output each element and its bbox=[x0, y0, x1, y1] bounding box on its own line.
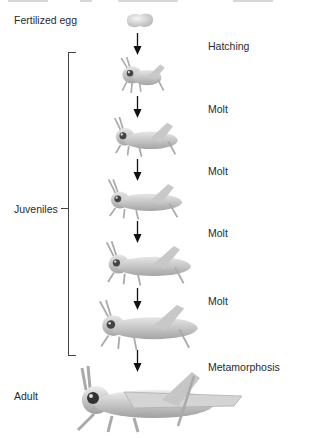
adult-label: Adult bbox=[14, 390, 38, 402]
juveniles-bracket bbox=[68, 52, 69, 356]
down-arrow-icon bbox=[133, 96, 142, 118]
transition-label-molt: Molt bbox=[208, 103, 228, 115]
juvenile-5-illustration bbox=[95, 300, 205, 352]
juvenile-3-illustration bbox=[104, 179, 190, 221]
juvenile-4-illustration bbox=[102, 241, 198, 287]
transition-label-hatching: Hatching bbox=[208, 40, 249, 52]
bracket-tick bbox=[61, 208, 69, 209]
juvenile-1-illustration bbox=[115, 57, 171, 95]
egg-illustration bbox=[124, 11, 156, 31]
transition-label-molt: Molt bbox=[208, 295, 228, 307]
transition-label-molt: Molt bbox=[208, 227, 228, 239]
cut-off-caption bbox=[8, 0, 308, 3]
bracket-top-cap bbox=[68, 52, 76, 53]
transition-label-molt: Molt bbox=[208, 165, 228, 177]
adult-illustration bbox=[74, 366, 254, 436]
fertilized-egg-label: Fertilized egg bbox=[14, 14, 77, 26]
juvenile-2-illustration bbox=[110, 117, 186, 159]
down-arrow-icon bbox=[133, 221, 142, 243]
bracket-bottom-cap bbox=[68, 355, 76, 356]
down-arrow-icon bbox=[133, 159, 142, 181]
down-arrow-icon bbox=[133, 33, 142, 55]
juveniles-label: Juveniles bbox=[14, 203, 58, 215]
